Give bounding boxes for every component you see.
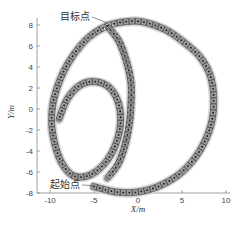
y-tick-label: -2	[26, 126, 34, 135]
x-tick-label: 5	[180, 196, 185, 205]
pose-marker	[120, 189, 126, 195]
x-tick-label: -5	[90, 196, 98, 205]
pose-marker	[209, 115, 216, 122]
y-tick-label: -4	[26, 147, 34, 156]
annotation-label: 起始点	[50, 178, 80, 190]
annotation-label: 目标点	[60, 11, 90, 22]
y-ticks: 86420-2-4-6-8	[26, 21, 40, 198]
pose-marker	[129, 18, 135, 24]
pose-marker	[49, 109, 55, 115]
pose-marker	[211, 98, 217, 104]
pose-marker	[126, 190, 132, 196]
x-tick-label: 10	[222, 196, 231, 205]
y-tick-label: 4	[29, 63, 34, 72]
pose-marker	[108, 188, 115, 195]
annotation-leader	[92, 17, 107, 23]
y-tick-label: 8	[29, 21, 34, 30]
trajectory-chart: 86420-2-4-6-8 -10-50510 X/m Y/m 目标点起始点	[0, 0, 244, 225]
pose-marker	[210, 104, 216, 110]
pose-marker	[140, 19, 147, 26]
pose-marker	[117, 114, 123, 120]
pose-marker	[135, 18, 141, 24]
y-axis-label: Y/m	[6, 105, 16, 120]
pose-marker	[49, 126, 56, 133]
pose-marker	[123, 18, 130, 25]
x-tick-label: -10	[44, 196, 56, 205]
y-tick-label: 0	[29, 105, 34, 114]
pose-marker	[117, 120, 123, 126]
pose-marker	[116, 126, 123, 133]
y-tick-label: -8	[26, 189, 34, 198]
pose-marker	[49, 121, 55, 127]
pose-marker	[92, 78, 98, 84]
x-axis-label: X/m	[130, 204, 146, 214]
pose-marker	[49, 102, 56, 109]
pose-marker	[210, 92, 216, 98]
y-tick-label: 6	[29, 42, 34, 51]
y-tick-label: 2	[29, 84, 34, 93]
y-tick-label: -6	[26, 168, 34, 177]
pose-marker	[210, 110, 217, 117]
pose-marker	[132, 189, 139, 196]
pose-marker	[49, 115, 55, 121]
pose-marker	[114, 189, 121, 196]
